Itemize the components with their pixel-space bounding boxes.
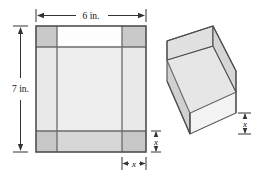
dimension-label-x-box: x [242, 119, 247, 129]
sheet-center-panel [57, 47, 122, 131]
dimension-x-sheet-vertical: x [151, 131, 161, 152]
sheet-top-blank-region [57, 26, 122, 47]
corner-square-bottom-left [36, 131, 57, 152]
dimension-width-6in: 6 in. [36, 9, 146, 22]
dim-height-arrowhead-top [18, 27, 23, 34]
dim-x-vert-arrowhead-bottom [154, 146, 159, 152]
dimension-height-7in: 7 in. [12, 26, 29, 152]
dimension-label-x-sheet-vertical: x [153, 137, 158, 147]
flat-sheet-group [36, 26, 146, 152]
corner-square-top-right [122, 26, 146, 47]
dimension-label-width: 6 in. [83, 11, 100, 21]
open-box-3d-group [167, 26, 236, 134]
diagram-canvas: 6 in. 7 in. x [0, 0, 263, 177]
dim-x-box-arrowhead-bottom [243, 128, 248, 134]
dim-width-arrowhead-right [138, 13, 145, 18]
dim-height-arrowhead-bottom [18, 144, 23, 151]
dimension-label-height: 7 in. [12, 84, 29, 94]
dimension-x-sheet-horizontal: x [122, 157, 146, 170]
dim-width-arrowhead-left [37, 13, 44, 18]
open-box-diagram: 6 in. 7 in. x [0, 0, 263, 177]
dim-x-horiz-arrowhead-left [123, 161, 129, 166]
dim-x-horiz-arrowhead-right [140, 161, 146, 166]
corner-square-bottom-right [122, 131, 146, 152]
corner-square-top-left [36, 26, 57, 47]
dimension-x-box: x [238, 113, 251, 134]
dimension-label-x-sheet-horizontal: x [131, 159, 136, 169]
